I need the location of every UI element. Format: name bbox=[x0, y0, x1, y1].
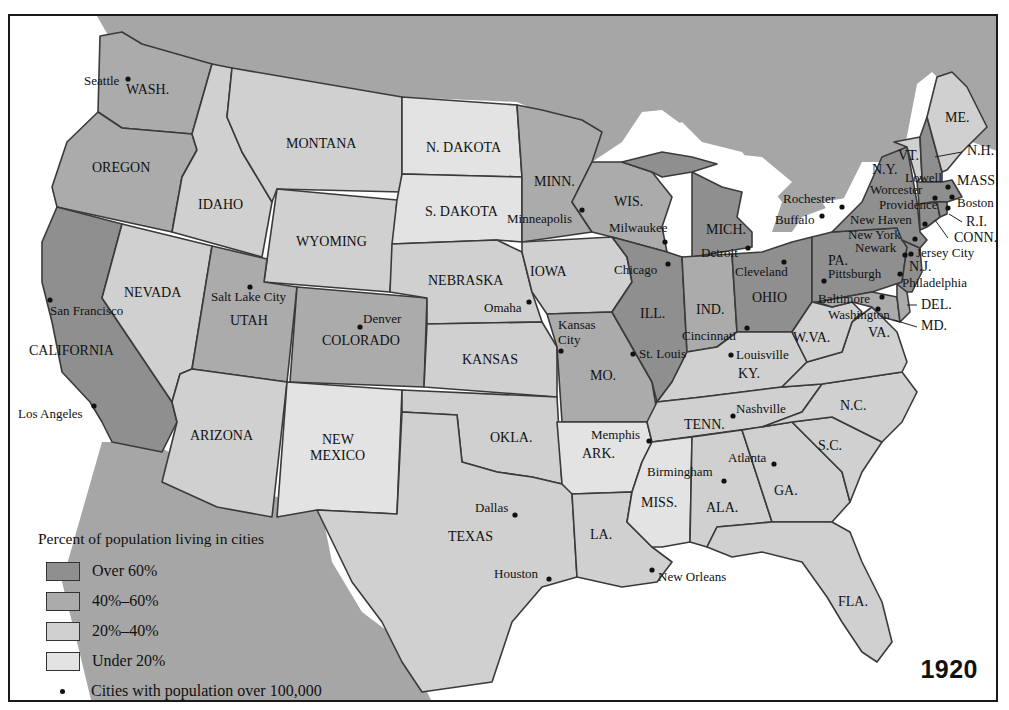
city-label: Chicago bbox=[614, 262, 657, 277]
city-label: Houston bbox=[494, 566, 539, 581]
city-dot-icon bbox=[646, 438, 651, 443]
city-label: New York bbox=[848, 227, 901, 242]
city-label: Rochester bbox=[783, 191, 836, 206]
state-label: MO. bbox=[590, 368, 616, 383]
city-label: Nashville bbox=[736, 401, 786, 416]
city-label: Cincinnati bbox=[682, 328, 737, 343]
city-label: Baltimore bbox=[818, 291, 870, 306]
state-label: CONN. bbox=[954, 230, 997, 245]
city-label: Los Angeles bbox=[18, 406, 83, 421]
state-label: MONTANA bbox=[286, 136, 357, 151]
state-label: IOWA bbox=[530, 264, 567, 279]
city-label: Buffalo bbox=[775, 212, 814, 227]
city-dot-icon bbox=[912, 236, 917, 241]
state-label: ILL. bbox=[640, 306, 665, 321]
city-dot-icon bbox=[512, 512, 517, 517]
city-label: Atlanta bbox=[728, 450, 766, 465]
state-label: OKLA. bbox=[490, 430, 532, 445]
city-label: New Orleans bbox=[658, 569, 726, 584]
state-label: S. DAKOTA bbox=[425, 204, 499, 219]
map-year: 1920 bbox=[920, 655, 978, 684]
city-label: Detroit bbox=[701, 245, 738, 260]
state-label: TENN. bbox=[684, 417, 725, 432]
state-label: NEBRASKA bbox=[428, 273, 504, 288]
city-label: Louisville bbox=[736, 347, 789, 362]
state-label: N. DAKOTA bbox=[426, 140, 502, 155]
state-label: OHIO bbox=[752, 290, 787, 305]
city-dot-icon bbox=[730, 413, 735, 418]
city-label: Washington bbox=[828, 307, 890, 322]
state-label: ARK. bbox=[582, 446, 615, 461]
city-label: Dallas bbox=[475, 500, 508, 515]
state-label: WYOMING bbox=[296, 234, 367, 249]
state-label: WASH. bbox=[126, 82, 169, 97]
state-north-dakota bbox=[402, 97, 522, 177]
legend-swatch-under-20 bbox=[46, 652, 80, 671]
city-label: St. Louis bbox=[639, 346, 686, 361]
city-dot-icon bbox=[922, 221, 927, 226]
map-frame: WASH.OREGONCALIFORNIAIDAHONEVADAMONTANAW… bbox=[8, 14, 998, 702]
state-label: GA. bbox=[774, 483, 798, 498]
state-label: UTAH bbox=[230, 313, 268, 328]
state-label: N.Y. bbox=[872, 162, 897, 177]
city-label: Omaha bbox=[484, 300, 522, 315]
city-label: Pittsburgh bbox=[828, 266, 882, 281]
city-label: New Haven bbox=[850, 212, 912, 227]
city-dot-icon bbox=[908, 251, 913, 256]
legend-item-40-60: 40%–60% bbox=[38, 586, 322, 616]
state-label: LA. bbox=[590, 527, 612, 542]
state-label: S.C. bbox=[818, 438, 842, 453]
state-label: CALIFORNIA bbox=[29, 343, 115, 358]
city-dot-icon bbox=[546, 576, 551, 581]
state-label: N.C. bbox=[840, 398, 866, 413]
state-label: KANSAS bbox=[462, 352, 518, 367]
state-label: ALA. bbox=[706, 500, 738, 515]
city-dot-icon bbox=[744, 325, 749, 330]
city-label: San Francisco bbox=[50, 303, 123, 318]
state-label: ME. bbox=[945, 110, 970, 125]
city-label: Kansas bbox=[558, 317, 596, 332]
legend-label: Cities with population over 100,000 bbox=[91, 682, 322, 700]
state-label: MASS. bbox=[957, 173, 998, 188]
state-label: MISS. bbox=[641, 495, 677, 510]
legend-item-under-20: Under 20% bbox=[38, 646, 322, 676]
state-florida bbox=[707, 522, 892, 662]
city-dot-icon bbox=[630, 351, 635, 356]
city-dot-icon bbox=[665, 261, 670, 266]
legend-item-20-40: 20%–40% bbox=[38, 616, 322, 646]
city-dot-icon bbox=[558, 348, 563, 353]
city-label: Memphis bbox=[591, 427, 640, 442]
city-label: Seattle bbox=[84, 73, 120, 88]
city-dot-icon bbox=[91, 403, 96, 408]
city-dot-icon bbox=[932, 195, 937, 200]
city-dot-icon bbox=[728, 352, 733, 357]
state-label: R.I. bbox=[966, 214, 987, 229]
state-label: OREGON bbox=[92, 160, 150, 175]
state-label: KY. bbox=[738, 366, 760, 381]
city-dot-icon bbox=[721, 478, 726, 483]
city-dot-icon bbox=[649, 567, 654, 572]
state-label: DEL. bbox=[921, 297, 952, 312]
city-label: Jersey City bbox=[916, 245, 975, 260]
city-dot-icon bbox=[839, 204, 844, 209]
city-dot-icon bbox=[945, 205, 950, 210]
state-label: FLA. bbox=[838, 594, 868, 609]
legend-item-cities: Cities with population over 100,000 bbox=[38, 676, 322, 702]
city-label: Birmingham bbox=[647, 464, 713, 479]
city-dot-icon bbox=[745, 245, 750, 250]
state-label: W.VA. bbox=[793, 330, 830, 345]
state-label: IND. bbox=[696, 302, 724, 317]
state-label: N.J. bbox=[909, 259, 932, 274]
state-label: VA. bbox=[868, 325, 890, 340]
legend-title: Percent of population living in cities bbox=[38, 530, 322, 548]
city-dot-icon bbox=[949, 194, 954, 199]
legend-label: Under 20% bbox=[92, 652, 165, 670]
state-label: COLORADO bbox=[322, 333, 400, 348]
legend-swatch-40-60 bbox=[46, 592, 80, 611]
state-label: MD. bbox=[921, 318, 947, 333]
city-dot-icon bbox=[821, 278, 826, 283]
legend-label: Over 60% bbox=[92, 562, 157, 580]
city-dot-icon bbox=[526, 299, 531, 304]
state-label: N.H. bbox=[967, 143, 994, 158]
state-label: NEVADA bbox=[124, 285, 182, 300]
